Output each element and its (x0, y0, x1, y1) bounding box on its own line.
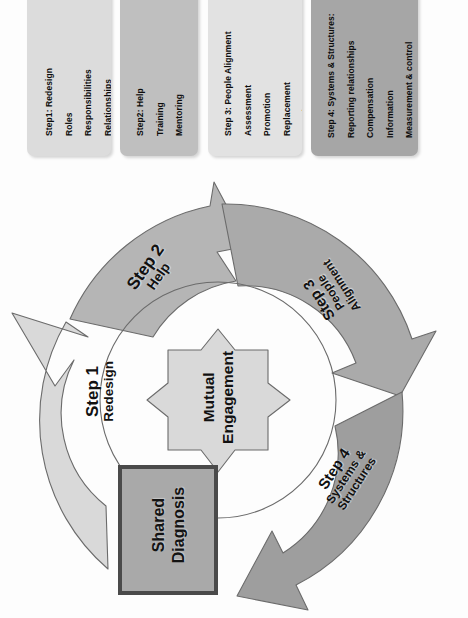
center-star (147, 329, 290, 472)
cycle-wheel (0, 0, 468, 618)
diagram-canvas: Step1: Redesign Roles Responsibilities R… (0, 0, 468, 618)
step2-arrow (70, 182, 248, 337)
step1-arrow (12, 313, 108, 569)
shared-diagnosis-box (120, 467, 216, 593)
